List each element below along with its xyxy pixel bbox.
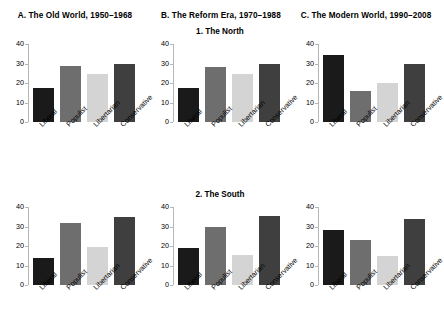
x-axis-labels: LiberalPopulistLibertarianConservative (319, 286, 432, 322)
y-axis-tick (315, 44, 318, 45)
y-axis-label: 20 (16, 79, 24, 86)
y-axis-tick (25, 103, 28, 104)
y-axis-label: 20 (306, 242, 314, 249)
y-axis-tick (315, 122, 318, 123)
x-axis-labels: LiberalPopulistLibertarianConservative (319, 123, 432, 159)
x-axis-labels: LiberalPopulistLibertarianConservative (174, 123, 287, 159)
panel-a2: 010203040LiberalPopulistLibertarianConse… (6, 205, 146, 323)
y-axis-label: 30 (16, 223, 24, 230)
y-axis-tick (25, 227, 28, 228)
y-axis-label: 30 (306, 60, 314, 67)
y-axis-label: 0 (165, 118, 169, 125)
y-axis-tick (25, 44, 28, 45)
row-title-north: 1. The North (0, 27, 440, 36)
y-axis-label: 0 (310, 281, 314, 288)
y-axis-tick (25, 207, 28, 208)
y-axis-label: 40 (16, 40, 24, 47)
y-axis-label: 10 (161, 262, 169, 269)
y-axis-label: 0 (20, 281, 24, 288)
y-axis-tick (170, 103, 173, 104)
y-axis-tick (170, 64, 173, 65)
y-axis-label: 30 (161, 223, 169, 230)
x-axis-labels: LiberalPopulistLibertarianConservative (29, 123, 142, 159)
y-axis-label: 10 (16, 99, 24, 106)
y-axis-tick (315, 227, 318, 228)
y-axis-label: 20 (16, 242, 24, 249)
panel-a1: 010203040LiberalPopulistLibertarianConse… (6, 42, 146, 160)
y-axis-tick (170, 246, 173, 247)
y-axis-tick (170, 285, 173, 286)
y-axis-tick (315, 64, 318, 65)
y-axis-tick (25, 246, 28, 247)
y-axis-tick (25, 122, 28, 123)
y-axis-tick (170, 266, 173, 267)
y-axis-tick (25, 266, 28, 267)
y-axis-label: 0 (165, 281, 169, 288)
y-axis-label: 20 (306, 79, 314, 86)
y-axis-label: 30 (16, 60, 24, 67)
y-axis-tick (170, 122, 173, 123)
y-axis-label: 20 (161, 79, 169, 86)
panel-c1: 010203040LiberalPopulistLibertarianConse… (296, 42, 436, 160)
y-axis-tick (25, 83, 28, 84)
x-axis-labels: LiberalPopulistLibertarianConservative (174, 286, 287, 322)
y-axis-label: 10 (306, 262, 314, 269)
y-axis-tick (315, 246, 318, 247)
y-axis-tick (315, 83, 318, 84)
y-axis-label: 30 (306, 223, 314, 230)
y-axis-tick (315, 207, 318, 208)
y-axis-tick (315, 266, 318, 267)
y-axis-label: 10 (16, 262, 24, 269)
y-axis-tick (315, 103, 318, 104)
y-axis-label: 40 (306, 40, 314, 47)
y-axis-label: 0 (20, 118, 24, 125)
panel-c2: 010203040LiberalPopulistLibertarianConse… (296, 205, 436, 323)
y-axis-label: 40 (161, 40, 169, 47)
y-axis-label: 20 (161, 242, 169, 249)
y-axis-label: 30 (161, 60, 169, 67)
y-axis-label: 10 (306, 99, 314, 106)
y-axis-tick (170, 207, 173, 208)
y-axis-tick (25, 64, 28, 65)
y-axis-label: 0 (310, 118, 314, 125)
panel-b2: 010203040LiberalPopulistLibertarianConse… (151, 205, 291, 323)
y-axis-tick (170, 83, 173, 84)
column-title-b: B. The Reform Era, 1970–1988 (148, 11, 294, 20)
y-axis-tick (170, 44, 173, 45)
y-axis-tick (170, 227, 173, 228)
panel-b1: 010203040LiberalPopulistLibertarianConse… (151, 42, 291, 160)
y-axis-label: 40 (161, 203, 169, 210)
column-title-a: A. The Old World, 1950–1968 (0, 11, 150, 20)
x-axis-labels: LiberalPopulistLibertarianConservative (29, 286, 142, 322)
y-axis-label: 40 (306, 203, 314, 210)
y-axis-tick (25, 285, 28, 286)
y-axis-tick (315, 285, 318, 286)
row-title-south: 2. The South (0, 190, 440, 199)
column-titles: A. The Old World, 1950–1968 B. The Refor… (0, 11, 440, 25)
column-title-c: C. The Modern World, 1990–2008 (292, 11, 440, 20)
y-axis-label: 10 (161, 99, 169, 106)
y-axis-label: 40 (16, 203, 24, 210)
